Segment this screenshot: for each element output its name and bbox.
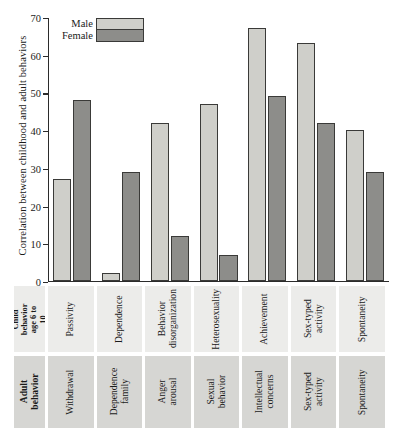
cell-label: Anger arousal	[157, 369, 178, 415]
bar-group	[244, 18, 293, 281]
row-child-cell-5: Sex-typed activity	[291, 286, 337, 352]
bar-female-4	[268, 96, 286, 281]
bar-female-5	[317, 123, 335, 281]
bar-group	[195, 18, 244, 281]
y-tick-mark	[43, 282, 48, 283]
bar-group	[98, 18, 147, 281]
row-child-cell-1: Dependence	[97, 286, 143, 352]
plot-area: 010203040506070	[48, 18, 389, 282]
bar-group	[146, 18, 195, 281]
cell-label: Child behavior age 6 to 10	[14, 303, 45, 334]
y-tick-mark	[43, 244, 48, 245]
legend-swatch-female	[97, 30, 143, 41]
y-tick-mark	[43, 169, 48, 170]
y-tick-label: 40	[31, 126, 42, 137]
row-child-cell-0: Passivity	[48, 286, 94, 352]
legend-swatch-male	[97, 19, 143, 30]
legend-label-female: Female	[62, 30, 93, 42]
bar-male-6	[346, 130, 364, 281]
bar-female-1	[122, 172, 140, 281]
cell-label: Adult behavior	[19, 374, 40, 410]
cell-label: Passivity	[65, 302, 76, 337]
y-tick-label: 50	[31, 88, 42, 99]
y-tick-label: 30	[31, 163, 42, 174]
y-tick-mark	[43, 131, 48, 132]
y-tick-mark	[43, 207, 48, 208]
bar-female-6	[366, 172, 384, 281]
bar-group	[341, 18, 390, 281]
cell-label: Withdrawal	[65, 370, 76, 415]
cell-label: Dependence family	[109, 368, 130, 415]
row-adult-cell-2: Anger arousal	[145, 356, 191, 428]
legend-swatches	[96, 18, 144, 42]
y-tick-mark	[43, 93, 48, 94]
bar-male-5	[297, 43, 315, 281]
legend-label-male: Male	[71, 18, 93, 30]
bar-male-4	[248, 28, 266, 281]
cell-label: Dependence	[114, 295, 125, 342]
cell-label: Spontaneity	[356, 296, 367, 342]
legend: Male Female	[62, 18, 144, 42]
row-child-cell-2: Behavior disorganization	[145, 286, 191, 352]
bars-container	[49, 18, 389, 281]
row-child-cell-4: Achievement	[242, 286, 288, 352]
cell-label: Sex-typed activity	[303, 369, 324, 415]
cell-label: Sex-typed activity	[303, 296, 324, 342]
cell-label: Achievement	[259, 293, 270, 344]
y-tick-label: 70	[31, 13, 42, 24]
bar-female-3	[219, 255, 237, 281]
cell-label: Heterosexuality	[211, 289, 222, 350]
row-adult-cell-1: Dependence family	[97, 356, 143, 428]
bar-female-2	[171, 236, 189, 281]
legend-labels: Male Female	[62, 18, 93, 42]
bar-chart-figure: Correlation between childhood and adult …	[0, 0, 394, 432]
row-adult-cell-3: Sexual behavior	[194, 356, 240, 428]
row-adult-cell-5: Sex-typed activity	[291, 356, 337, 428]
bar-group	[49, 18, 98, 281]
bar-group	[293, 18, 342, 281]
y-tick-mark	[43, 56, 48, 57]
bar-male-1	[102, 273, 120, 281]
row-child-header: Child behavior age 6 to 10	[14, 286, 45, 352]
label-table: Child behavior age 6 to 10PassivityDepen…	[14, 286, 390, 428]
row-adult-cell-4: Intellectual concerns	[242, 356, 288, 428]
bar-female-0	[73, 100, 91, 281]
bar-male-2	[151, 123, 169, 281]
y-tick-label: 10	[31, 239, 42, 250]
y-tick-label: 60	[31, 50, 42, 61]
row-adult-cell-6: Spontaneity	[339, 356, 385, 428]
row-child-cell-6: Spontaneity	[339, 286, 385, 352]
bar-male-3	[200, 104, 218, 281]
cell-label: Behavior disorganization	[157, 290, 178, 349]
adult-behavior-row: Adult behaviorWithdrawalDependence famil…	[14, 356, 390, 428]
bar-male-0	[53, 179, 71, 281]
y-tick-mark	[43, 18, 48, 19]
cell-label: Spontaneity	[356, 369, 367, 415]
row-child-cell-3: Heterosexuality	[194, 286, 240, 352]
cell-label: Intellectual concerns	[254, 369, 275, 415]
y-tick-label: 20	[31, 201, 42, 212]
cell-label: Sexual behavior	[206, 369, 227, 415]
row-adult-cell-0: Withdrawal	[48, 356, 94, 428]
child-behavior-row: Child behavior age 6 to 10PassivityDepen…	[14, 286, 390, 352]
y-axis-title: Correlation between childhood and adult …	[17, 6, 28, 286]
row-adult-header: Adult behavior	[14, 356, 45, 428]
